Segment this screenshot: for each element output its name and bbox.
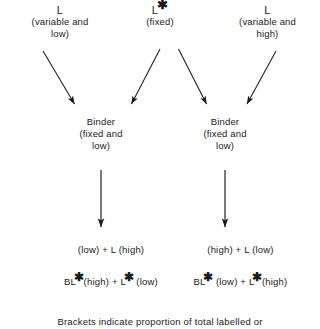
source-symbol: L: [0, 4, 120, 16]
binder-label: Binder: [175, 116, 275, 128]
source-qualifier-line2: low): [0, 28, 120, 40]
diagram-canvas: L (variable and low) L✱ (fixed) L (varia…: [0, 0, 320, 329]
source-qualifier-line1: (variable and: [0, 16, 120, 28]
asterisk-icon: ✱: [124, 270, 134, 284]
binder-node-left: Binder (fixed and low): [51, 116, 151, 153]
source-node-l-variable-high: L (variable and high): [215, 4, 320, 41]
binder-qualifier-line2: low): [175, 140, 275, 152]
asterisk-icon: ✱: [252, 270, 262, 284]
result-right-mid: (low) + L: [213, 276, 254, 287]
result-left-mid: (high) + L: [84, 276, 126, 287]
figure-caption-text: Brackets indicate proportion of total la…: [57, 316, 262, 327]
binder-qualifier-line2: low): [51, 140, 151, 152]
result-right-line2: BL✱ (low) + L✱(high): [178, 275, 303, 288]
asterisk-icon: ✱: [203, 270, 213, 284]
result-left-line1: (low) + L (high): [51, 243, 171, 256]
source-qualifier-line1: (fixed): [120, 16, 200, 28]
arrow-l-high-to-binder-right: [247, 51, 276, 104]
result-right-tail: (high): [262, 276, 288, 287]
result-left-line1-text: (low) + L (high): [78, 244, 144, 255]
result-right-line1: (high) + L (low): [178, 243, 303, 256]
source-node-lstar-fixed: L✱ (fixed): [120, 4, 200, 28]
source-qualifier-line2: high): [215, 28, 320, 40]
arrow-l-low-to-binder-left: [43, 51, 75, 104]
source-symbol: L: [215, 4, 320, 16]
source-symbol-starred: L✱: [120, 4, 200, 16]
binder-qualifier-line1: (fixed and: [51, 128, 151, 140]
arrow-lstar-to-binder-left: [132, 49, 161, 104]
source-qualifier-line1: (variable and: [215, 16, 320, 28]
arrow-lstar-to-binder-right: [179, 49, 207, 104]
result-left-line2: BL✱(high) + L✱ (low): [51, 275, 171, 288]
result-left-tail: (low): [134, 276, 158, 287]
source-node-l-variable-low: L (variable and low): [0, 4, 120, 41]
binder-qualifier-line1: (fixed and: [175, 128, 275, 140]
result-right-line1-text: (high) + L (low): [207, 244, 273, 255]
figure-caption: Brackets indicate proportion of total la…: [0, 315, 320, 328]
asterisk-icon: ✱: [157, 0, 168, 12]
binder-node-right: Binder (fixed and low): [175, 116, 275, 153]
binder-label: Binder: [51, 116, 151, 128]
asterisk-icon: ✱: [74, 270, 84, 284]
